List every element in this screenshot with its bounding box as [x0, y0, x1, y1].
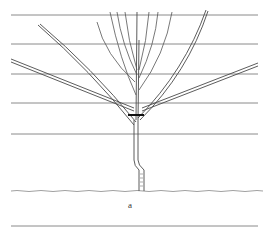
ground-line: [11, 191, 263, 192]
trunk: [134, 120, 144, 191]
tree-diagram: [0, 0, 269, 242]
figure-label: a: [128, 200, 132, 210]
scaffold-branches: [11, 10, 258, 125]
support-wires: [11, 15, 258, 134]
upright-shoots: [97, 12, 172, 95]
